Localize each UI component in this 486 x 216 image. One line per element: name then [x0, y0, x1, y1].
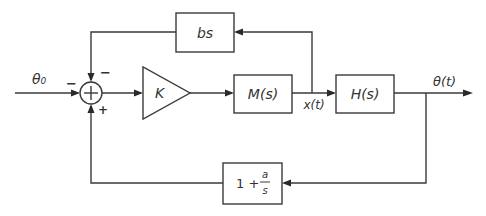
input-label: θ₀ — [32, 71, 47, 87]
svg-text:s: s — [262, 185, 267, 196]
derivative-feedback-label: bs — [197, 25, 213, 41]
output-arrow-icon — [463, 90, 473, 97]
output-label: θ(t) — [433, 74, 456, 89]
motor-input-arrow-icon — [225, 90, 234, 97]
sign-left: − — [66, 76, 77, 91]
sign-bottom: + — [98, 103, 108, 117]
motor-label: M(s) — [248, 86, 278, 102]
intermediate-signal-label: x(t) — [302, 98, 324, 112]
sum-top-arrow-icon — [88, 73, 95, 82]
block-diagram: θ₀ − − + K M(s) x(t) H(s) θ(t) bs 1 + a … — [0, 0, 486, 216]
plant-input-arrow-icon — [327, 90, 336, 97]
pi-to-sum-path — [91, 106, 223, 183]
gain-input-arrow-icon — [134, 90, 143, 97]
bs-input-arrow-icon — [234, 29, 243, 36]
svg-text:1 +: 1 + — [236, 176, 259, 191]
pi-input-arrow-icon — [282, 180, 291, 187]
sign-top: − — [100, 65, 111, 80]
sum-bottom-arrow-icon — [88, 104, 95, 113]
svg-text:a: a — [262, 169, 268, 180]
summing-junction — [80, 82, 102, 104]
gain-block — [143, 67, 190, 119]
plant-label: H(s) — [351, 86, 380, 102]
